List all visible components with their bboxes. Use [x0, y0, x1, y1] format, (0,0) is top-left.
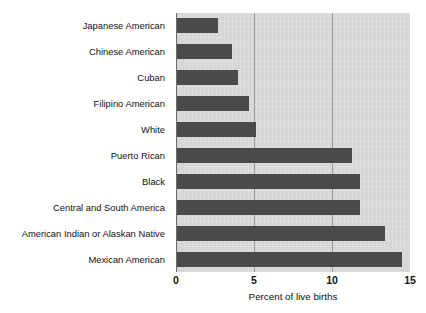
category-label: American Indian or Alaskan Native: [0, 226, 171, 241]
bar-row: [176, 252, 410, 267]
category-label: Central and South America: [0, 200, 171, 215]
category-label: Cuban: [0, 70, 171, 85]
plot-area: [176, 13, 410, 272]
y-axis-line: [176, 13, 177, 272]
bar: [176, 174, 360, 189]
category-label: Puerto Rican: [0, 148, 171, 163]
category-axis-labels: Japanese AmericanChinese AmericanCubanFi…: [0, 13, 171, 272]
bar-row: [176, 18, 410, 33]
bar: [176, 226, 385, 241]
bar: [176, 252, 402, 267]
bar-row: [176, 226, 410, 241]
bar-row: [176, 200, 410, 215]
bar-row: [176, 174, 410, 189]
bar: [176, 122, 256, 137]
bars-layer: [176, 13, 410, 272]
x-tick-label-10: 10: [326, 274, 338, 286]
bar: [176, 18, 218, 33]
bar-row: [176, 70, 410, 85]
bar: [176, 44, 232, 59]
x-tick-label-0: 0: [173, 274, 179, 286]
bar-row: [176, 96, 410, 111]
bar: [176, 96, 249, 111]
bar: [176, 200, 360, 215]
bar-row: [176, 44, 410, 59]
bar-row: [176, 122, 410, 137]
category-label: Filipino American: [0, 96, 171, 111]
bar: [176, 70, 238, 85]
bar-chart: Japanese AmericanChinese AmericanCubanFi…: [0, 0, 426, 313]
category-label: Black: [0, 174, 171, 189]
category-label: Mexican American: [0, 252, 171, 267]
category-label: White: [0, 122, 171, 137]
x-axis-title: Percent of live births: [176, 291, 410, 302]
x-tick-label-5: 5: [251, 274, 257, 286]
bar: [176, 148, 352, 163]
x-tick-label-15: 15: [404, 274, 416, 286]
bar-row: [176, 148, 410, 163]
category-label: Chinese American: [0, 44, 171, 59]
category-label: Japanese American: [0, 18, 171, 33]
